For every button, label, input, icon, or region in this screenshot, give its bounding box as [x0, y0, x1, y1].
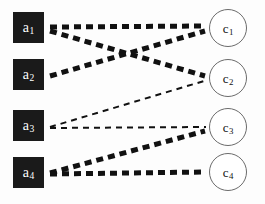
- node-label-c1: c1: [223, 22, 234, 35]
- node-label-c2: c2: [223, 72, 234, 85]
- edge-a1-to-c1: [50, 26, 206, 27]
- node-c1[interactable]: c1: [209, 9, 247, 47]
- node-label-a4: a4: [23, 166, 34, 180]
- edge-a3-to-c2: [50, 81, 204, 127]
- bipartite-graph-diagram: a1a2a3a4 c1c2c3c4: [0, 0, 265, 204]
- node-label-c3: c3: [223, 121, 234, 134]
- node-label-a1: a1: [23, 21, 34, 35]
- node-subscript-c4: 4: [228, 171, 233, 181]
- node-a3[interactable]: a3: [13, 110, 44, 141]
- node-label-c4: c4: [223, 166, 234, 179]
- edge-a4-to-c4: [50, 172, 206, 174]
- node-label-a3: a3: [23, 119, 34, 133]
- node-subscript-c3: 3: [228, 126, 233, 136]
- edge-a3-to-c3: [50, 127, 206, 128]
- node-c2[interactable]: c2: [209, 59, 247, 97]
- node-a2[interactable]: a2: [13, 59, 44, 90]
- node-label-a2: a2: [23, 68, 34, 82]
- edge-a4-to-c3: [50, 131, 205, 173]
- node-subscript-a3: 3: [29, 124, 34, 134]
- node-subscript-a2: 2: [29, 73, 34, 83]
- node-a1[interactable]: a1: [13, 12, 44, 43]
- node-subscript-c1: 1: [228, 27, 233, 37]
- node-subscript-c2: 2: [228, 77, 233, 87]
- node-subscript-a1: 1: [29, 26, 34, 36]
- node-c3[interactable]: c3: [209, 108, 247, 146]
- node-subscript-a4: 4: [29, 171, 34, 181]
- node-a4[interactable]: a4: [13, 157, 44, 188]
- node-c4[interactable]: c4: [209, 153, 247, 191]
